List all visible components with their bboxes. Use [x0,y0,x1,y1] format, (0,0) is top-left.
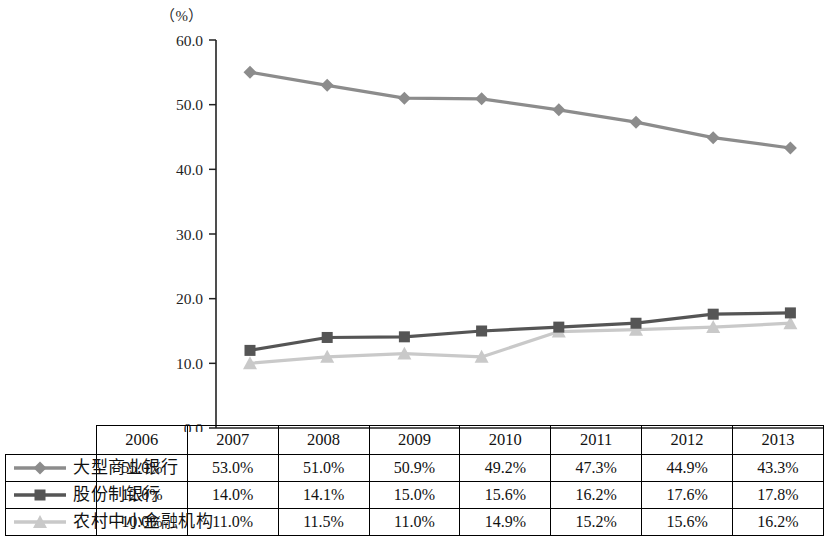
legend-cell: 农村中小金融机构 [6,509,97,536]
table-cell: 53.0% [187,455,278,482]
data-point-marker [784,141,797,154]
data-point-marker [244,66,257,79]
table-cell: 47.3% [551,455,642,482]
table-year-header: 2011 [551,426,642,455]
data-point-marker [785,307,796,318]
table-cell: 14.9% [460,509,551,536]
table-cell: 44.9% [642,455,733,482]
table-year-header: 2008 [278,426,369,455]
y-axis-tick-label: 50.0 [176,96,203,113]
data-point-marker [35,490,46,501]
table-cell: 49.2% [460,455,551,482]
table-cell: 17.6% [642,482,733,509]
table-cell: 51.0% [278,455,369,482]
data-point-marker [322,332,333,343]
data-point-marker [631,318,642,329]
legend-marker-diamond-icon [12,459,68,477]
legend-entry: 农村中小金融机构 [12,509,96,535]
table-row: 农村中小金融机构10.0%11.0%11.5%11.0%14.9%15.2%15… [6,509,824,536]
legend-entry: 大型商业银行 [12,455,96,481]
table-year-header: 2013 [733,426,824,455]
table-cell: 16.2% [551,482,642,509]
legend-marker-triangle-icon [12,513,68,531]
table-body: 大型商业银行55.0%53.0%51.0%50.9%49.2%47.3%44.9… [6,455,824,536]
data-point-marker [707,131,720,144]
data-point-marker [708,309,719,320]
table-cell: 15.6% [642,509,733,536]
data-point-marker [399,331,410,342]
data-point-marker [34,462,47,475]
table-corner-cell [6,426,97,455]
data-point-marker [245,345,256,356]
legend-cell: 股份制银行 [6,482,97,509]
table-cell: 14.1% [278,482,369,509]
data-point-marker [475,92,488,105]
data-point-marker [321,79,334,92]
table-year-header: 2006 [96,426,187,455]
legend-marker-square-icon [12,486,68,504]
y-axis-tick-label: 20.0 [176,290,203,307]
y-axis-tick-label: 60.0 [176,32,203,49]
line-chart: （%） 0.010.020.030.040.050.060.0 [0,0,826,432]
legend-cell: 大型商业银行 [6,455,97,482]
series-layer [243,66,797,369]
series-1 [244,66,797,155]
table-cell: 11.5% [278,509,369,536]
table-year-header: 2012 [642,426,733,455]
plot-area: 0.010.020.030.040.050.060.0 [0,0,826,432]
data-point-marker [553,322,564,333]
table-row: 股份制银行12.0%14.0%14.1%15.0%15.6%16.2%17.6%… [6,482,824,509]
table-cell: 50.9% [369,455,460,482]
table-cell: 43.3% [733,455,824,482]
data-point-marker [398,92,411,105]
table-cell: 16.2% [733,509,824,536]
data-point-marker [476,326,487,337]
y-axis: 0.010.020.030.040.050.060.0 [176,32,824,433]
table-cell: 17.8% [733,482,824,509]
table-cell: 15.6% [460,482,551,509]
table-year-header: 2010 [460,426,551,455]
table-cell: 15.2% [551,509,642,536]
y-axis-tick-label: 30.0 [176,226,203,243]
table-year-header: 2009 [369,426,460,455]
data-point-marker [552,103,565,116]
table-cell: 14.0% [187,482,278,509]
y-axis-tick-label: 40.0 [176,161,203,178]
table-header-row: 20062007200820092010201120122013 [6,426,824,455]
table-cell: 11.0% [369,509,460,536]
table-cell: 15.0% [369,482,460,509]
data-point-marker [630,116,643,129]
y-axis-tick-label: 10.0 [176,355,203,372]
legend-entry: 股份制银行 [12,482,96,508]
table-year-header: 2007 [187,426,278,455]
data-table: 20062007200820092010201120122013 大型商业银行5… [5,425,824,536]
table-row: 大型商业银行55.0%53.0%51.0%50.9%49.2%47.3%44.9… [6,455,824,482]
